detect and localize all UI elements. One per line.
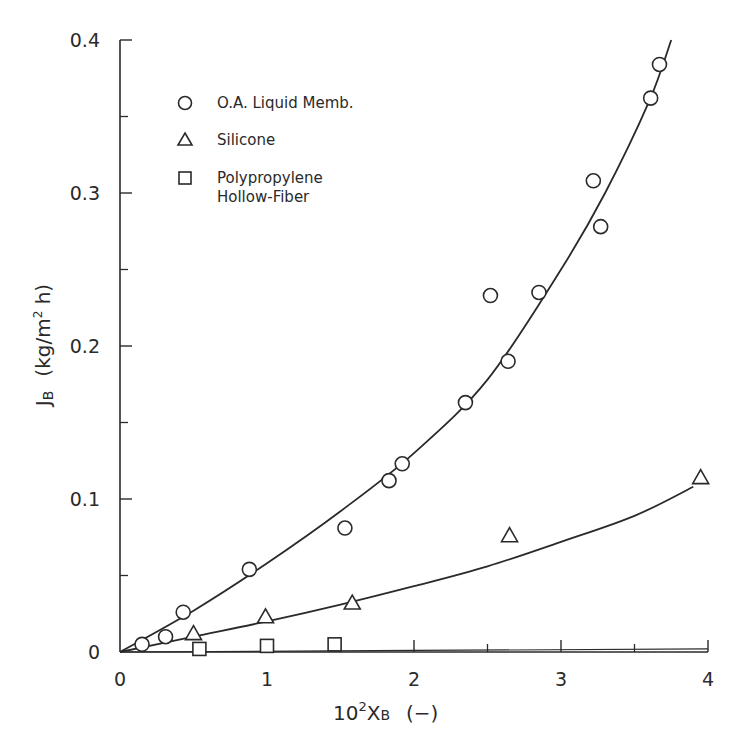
- y-tick-label: 0.3: [70, 182, 100, 204]
- y-tick-label: 0: [88, 641, 100, 663]
- legend-item-polypropylene: Polypropylene Hollow-Fiber: [179, 169, 323, 206]
- x-tick-label: 0: [114, 668, 126, 690]
- x-axis-sup: 2: [358, 699, 366, 714]
- y-axis-unit-pre: (kg/m: [31, 318, 55, 376]
- circle-data-point: [483, 289, 497, 303]
- triangle-data-point: [502, 528, 518, 542]
- y-tick-label: 0.2: [70, 335, 100, 357]
- x-tick-label: 1: [261, 668, 273, 690]
- x-axis-main: 10: [333, 701, 358, 725]
- y-axis-title: JB(kg/m2 h): [31, 284, 56, 408]
- circle-data-point: [586, 174, 600, 188]
- circle-data-point: [159, 630, 173, 644]
- square-data-point: [261, 639, 274, 652]
- legend: O.A. Liquid Memb. Silicone Polypropylene…: [178, 94, 354, 206]
- triangle-data-point: [344, 595, 360, 609]
- x-axis-var: X: [367, 701, 381, 725]
- circle-data-point: [501, 354, 515, 368]
- legend-label-line1: Polypropylene: [217, 169, 323, 187]
- legend-item-oa-liquid-memb: O.A. Liquid Memb.: [179, 94, 354, 112]
- y-axis-var: J: [31, 400, 55, 408]
- square-data-point: [193, 642, 206, 655]
- circle-data-point: [338, 521, 352, 535]
- x-axis-title: 102XB(−): [333, 699, 438, 725]
- svg-text:102XB(−): 102XB(−): [333, 699, 438, 725]
- fit-curve-circle: [120, 40, 671, 652]
- legend-label: Silicone: [217, 131, 275, 149]
- legend-item-silicone: Silicone: [178, 131, 275, 149]
- y-axis-sub: B: [40, 391, 56, 401]
- circle-data-point: [382, 474, 396, 488]
- fit-curve-triangle: [120, 487, 693, 652]
- circle-data-point: [532, 285, 546, 299]
- square-data-point: [328, 638, 341, 651]
- circle-data-point: [652, 57, 666, 71]
- legend-label-line2: Hollow-Fiber: [217, 188, 310, 206]
- x-axis-unit: (−): [406, 701, 438, 725]
- x-tick-label: 2: [408, 668, 420, 690]
- circle-marker-icon: [179, 97, 192, 110]
- axes: 00.10.20.30.4 01234: [70, 29, 714, 690]
- triangle-data-point: [693, 470, 709, 484]
- triangle-data-point: [258, 609, 274, 623]
- y-tick-label: 0.1: [70, 488, 100, 510]
- circle-data-point: [458, 396, 472, 410]
- x-tick-label: 4: [702, 668, 714, 690]
- chart-canvas: 00.10.20.30.4 01234 JB(kg/m2 h) 102XB(−)…: [0, 0, 739, 752]
- x-axis-sub: B: [380, 707, 390, 723]
- triangle-data-point: [186, 626, 202, 640]
- circle-data-point: [395, 457, 409, 471]
- circle-data-point: [242, 562, 256, 576]
- y-ticks: 00.10.20.30.4: [70, 29, 132, 663]
- y-axis-unit-post: h): [31, 284, 55, 311]
- y-tick-label: 0.4: [70, 29, 100, 51]
- square-marker-icon: [179, 172, 191, 184]
- x-tick-label: 3: [555, 668, 567, 690]
- svg-text:JB(kg/m2 h): JB(kg/m2 h): [31, 284, 56, 408]
- triangle-marker-icon: [178, 133, 192, 145]
- fit-curves: [120, 40, 708, 652]
- legend-label: O.A. Liquid Memb.: [217, 94, 354, 112]
- circle-data-point: [644, 91, 658, 105]
- circle-data-point: [594, 220, 608, 234]
- y-axis-unit-sup: 2: [31, 311, 45, 319]
- circle-data-point: [135, 637, 149, 651]
- circle-data-point: [176, 605, 190, 619]
